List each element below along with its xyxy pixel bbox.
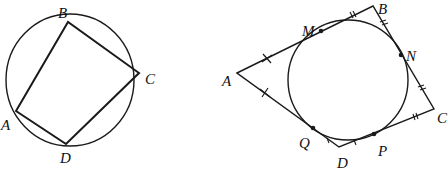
label-vertex-d-outer: D xyxy=(336,155,348,171)
tangent-point-n xyxy=(399,53,404,58)
label-point-p: P xyxy=(377,143,387,159)
label-point-n: N xyxy=(405,48,417,64)
cross-tick-aq xyxy=(260,88,270,97)
figure-tangential-quadrilateral: A M B N C P Q D xyxy=(221,1,448,171)
label-vertex-b-outer: B xyxy=(378,1,387,17)
label-vertex-c-outer: C xyxy=(437,110,448,126)
label-vertex-a: A xyxy=(0,117,11,133)
quadrilateral-abcd-outer xyxy=(237,6,434,147)
figure-cyclic-quadrilateral: B C A D xyxy=(0,5,156,166)
tangent-point-p xyxy=(372,132,377,137)
label-vertex-c: C xyxy=(145,71,156,87)
label-point-m: M xyxy=(301,23,316,39)
tangent-point-m xyxy=(319,29,324,34)
diagram-canvas: B C A D xyxy=(0,0,448,175)
cross-tick-am xyxy=(262,54,272,63)
label-vertex-d: D xyxy=(59,150,71,166)
label-vertex-a-outer: A xyxy=(221,73,232,89)
label-point-q: Q xyxy=(299,135,310,151)
circumcircle xyxy=(6,14,134,146)
tangent-point-q xyxy=(311,126,316,131)
label-vertex-b: B xyxy=(58,5,67,21)
